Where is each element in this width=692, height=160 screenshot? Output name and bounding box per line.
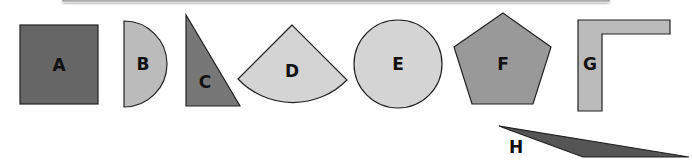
shape-label-d: D bbox=[285, 61, 299, 81]
shape-a-square: A bbox=[20, 25, 98, 104]
shape-e-circle: E bbox=[354, 20, 442, 108]
shape-label-a: A bbox=[52, 55, 66, 75]
shape-c-right-triangle: C bbox=[186, 15, 240, 106]
shape-g-l-shape: G bbox=[578, 20, 670, 111]
shape-label-e: E bbox=[392, 54, 404, 74]
shape-h-obtuse-triangle: H bbox=[499, 126, 689, 157]
shape-label-g: G bbox=[583, 54, 597, 74]
shape-b-semicircle: B bbox=[124, 21, 167, 107]
shapes-diagram: A B C D E F G H bbox=[0, 0, 692, 160]
shape-f-pentagon: F bbox=[454, 13, 551, 104]
shape-label-h: H bbox=[509, 137, 523, 157]
triangle-c-fill bbox=[186, 15, 240, 106]
shape-label-c: C bbox=[199, 72, 211, 92]
shape-label-f: F bbox=[497, 54, 509, 74]
triangle-h-fill bbox=[499, 126, 689, 157]
shape-d-sector: D bbox=[238, 25, 347, 103]
shape-label-b: B bbox=[137, 54, 150, 74]
